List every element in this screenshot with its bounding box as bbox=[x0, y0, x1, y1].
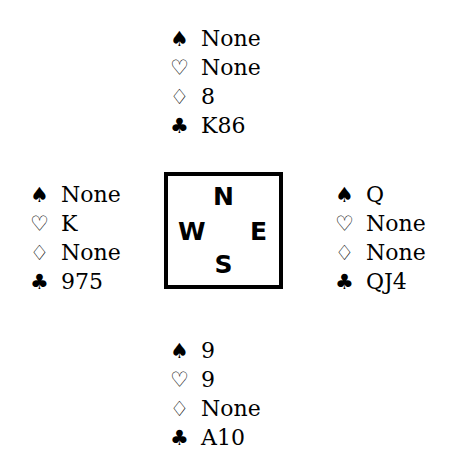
hand-west-spades-row: ♠ None bbox=[30, 180, 121, 209]
hand-south-diamonds-cards: None bbox=[201, 394, 261, 423]
hand-west-hearts-cards: K bbox=[61, 209, 77, 238]
hand-south-spades-cards: 9 bbox=[201, 336, 215, 365]
compass-label-north: N bbox=[168, 184, 279, 209]
hand-west-clubs-cards: 975 bbox=[61, 267, 103, 296]
heart-icon: ♡ bbox=[170, 366, 201, 395]
spade-icon: ♠ bbox=[170, 337, 201, 366]
hand-east-spades-cards: Q bbox=[366, 180, 384, 209]
hand-east-clubs-cards: QJ4 bbox=[366, 267, 407, 296]
diamond-icon: ♢ bbox=[170, 83, 201, 112]
hand-south-hearts-row: ♡ 9 bbox=[170, 365, 261, 394]
hand-east-diamonds-cards: None bbox=[366, 238, 426, 267]
hand-east-hearts-row: ♡ None bbox=[335, 209, 426, 238]
hand-east-clubs-row: ♣ QJ4 bbox=[335, 267, 426, 296]
hand-east-spades-row: ♠ Q bbox=[335, 180, 426, 209]
hand-west-diamonds-row: ♢ None bbox=[30, 238, 121, 267]
club-icon: ♣ bbox=[30, 268, 61, 297]
hand-north-hearts-cards: None bbox=[201, 53, 261, 82]
hand-south: ♠ 9 ♡ 9 ♢ None ♣ A10 bbox=[170, 336, 261, 452]
hand-west: ♠ None ♡ K ♢ None ♣ 975 bbox=[30, 180, 121, 296]
hand-west-clubs-row: ♣ 975 bbox=[30, 267, 121, 296]
diamond-icon: ♢ bbox=[30, 239, 61, 268]
hand-south-spades-row: ♠ 9 bbox=[170, 336, 261, 365]
hand-north-diamonds-row: ♢ 8 bbox=[170, 82, 261, 111]
hand-east-diamonds-row: ♢ None bbox=[335, 238, 426, 267]
compass-label-east: E bbox=[250, 218, 267, 243]
diamond-icon: ♢ bbox=[170, 395, 201, 424]
hand-north-hearts-row: ♡ None bbox=[170, 53, 261, 82]
club-icon: ♣ bbox=[335, 268, 366, 297]
spade-icon: ♠ bbox=[335, 181, 366, 210]
bridge-hand-diagram: ♠ None ♡ None ♢ 8 ♣ K86 ♠ None ♡ K ♢ Non… bbox=[0, 0, 451, 466]
hand-east: ♠ Q ♡ None ♢ None ♣ QJ4 bbox=[335, 180, 426, 296]
heart-icon: ♡ bbox=[30, 210, 61, 239]
compass-box: N W E S bbox=[164, 172, 283, 289]
compass-label-south: S bbox=[168, 252, 279, 277]
diamond-icon: ♢ bbox=[335, 239, 366, 268]
hand-south-clubs-cards: A10 bbox=[201, 423, 245, 452]
compass-label-west: W bbox=[178, 218, 206, 243]
hand-north: ♠ None ♡ None ♢ 8 ♣ K86 bbox=[170, 24, 261, 140]
hand-west-diamonds-cards: None bbox=[61, 238, 121, 267]
hand-north-clubs-cards: K86 bbox=[201, 111, 245, 140]
spade-icon: ♠ bbox=[170, 25, 201, 54]
hand-south-hearts-cards: 9 bbox=[201, 365, 215, 394]
heart-icon: ♡ bbox=[170, 54, 201, 83]
hand-east-hearts-cards: None bbox=[366, 209, 426, 238]
club-icon: ♣ bbox=[170, 424, 201, 453]
club-icon: ♣ bbox=[170, 112, 201, 141]
hand-west-hearts-row: ♡ K bbox=[30, 209, 121, 238]
hand-north-diamonds-cards: 8 bbox=[201, 82, 215, 111]
spade-icon: ♠ bbox=[30, 181, 61, 210]
hand-north-clubs-row: ♣ K86 bbox=[170, 111, 261, 140]
hand-south-clubs-row: ♣ A10 bbox=[170, 423, 261, 452]
hand-north-spades-cards: None bbox=[201, 24, 261, 53]
heart-icon: ♡ bbox=[335, 210, 366, 239]
hand-north-spades-row: ♠ None bbox=[170, 24, 261, 53]
hand-west-spades-cards: None bbox=[61, 180, 121, 209]
hand-south-diamonds-row: ♢ None bbox=[170, 394, 261, 423]
